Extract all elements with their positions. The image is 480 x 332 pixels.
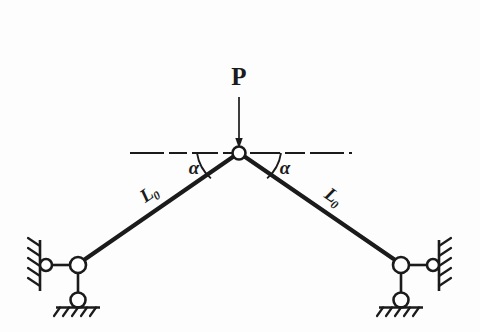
applied-load-group: P [231, 63, 246, 149]
right-support-assembly [377, 238, 451, 316]
member-left [81, 157, 234, 263]
angle-label-left: α [189, 157, 200, 178]
truss-members [81, 157, 398, 263]
left-wall-pin-joint [40, 259, 52, 271]
left-roller-joint [71, 293, 86, 308]
member-right [245, 157, 399, 263]
load-label: P [231, 63, 246, 90]
right-wall-hatching [439, 238, 451, 286]
right-ground-hatching [377, 308, 419, 317]
truss-diagram-canvas: P α α L 0 L 0 [0, 0, 480, 332]
member-right-length-group: L 0 [318, 182, 346, 212]
left-wall-hatching [28, 238, 40, 286]
member-left-length-group: L 0 [135, 180, 163, 210]
left-support-assembly [28, 238, 100, 316]
right-roller-joint [394, 293, 409, 308]
right-main-joint [393, 257, 409, 273]
left-ground-hatching [54, 308, 96, 317]
truss-figure: P α α L 0 L 0 [0, 0, 480, 332]
apex-pin-joint [233, 147, 246, 160]
angle-label-right: α [280, 157, 291, 178]
right-wall-pin-joint [427, 259, 439, 271]
left-main-joint [70, 257, 86, 273]
